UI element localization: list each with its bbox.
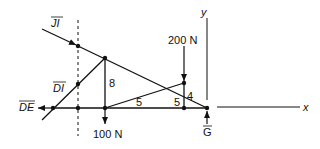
axis-label-x: x	[302, 101, 309, 113]
force-ji-arrow	[42, 29, 76, 45]
label-ji: JI	[50, 17, 60, 29]
axis-label-y: y	[200, 6, 208, 18]
label-100n: 100 N	[93, 128, 122, 140]
label-de: DE	[19, 101, 35, 113]
diagonal-member	[105, 83, 184, 108]
label-g: G	[203, 126, 212, 138]
dim-4: 4	[187, 90, 193, 102]
dim-5-left: 5	[136, 96, 142, 108]
truss-diagram: JI DI DE G 200 N 100 N 8 4 5 5 y x	[0, 0, 320, 149]
label-200n: 200 N	[168, 34, 197, 46]
label-di: DI	[53, 82, 64, 94]
dim-8: 8	[109, 77, 115, 89]
dim-5-right: 5	[174, 96, 180, 108]
cut-diagonal-di	[42, 58, 105, 120]
